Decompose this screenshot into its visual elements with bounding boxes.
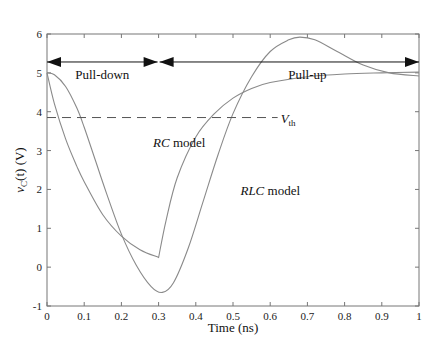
vth-label: Vth — [281, 111, 296, 128]
y-tick-label: 2 — [37, 183, 43, 195]
voltage-time-chart: 00.10.20.30.40.50.60.70.80.91-10123456 V… — [0, 0, 442, 347]
x-tick-label: 0.7 — [301, 310, 315, 322]
x-tick-label: 0.8 — [338, 310, 352, 322]
x-tick-label: 0.1 — [77, 310, 91, 322]
x-tick-label: 1 — [416, 310, 422, 322]
pull-up-label: Pull-up — [288, 67, 326, 82]
y-tick-label: 4 — [37, 106, 43, 118]
pull-up-arrowhead-right-icon — [405, 57, 419, 67]
x-axis-label: Time (ns) — [208, 320, 258, 335]
x-tick-label: 0.2 — [115, 310, 129, 322]
rc-model-label: RC model — [152, 135, 206, 150]
y-tick-label: 1 — [37, 222, 43, 234]
y-axis-label: vC(t) (V) — [12, 147, 29, 192]
x-tick-label: 0.6 — [263, 310, 277, 322]
x-tick-label: 0.3 — [152, 310, 166, 322]
y-tick-label: 5 — [37, 67, 43, 79]
rlc-model-label: RLC model — [239, 183, 300, 198]
pull-up-arrowhead-left-icon — [160, 57, 174, 67]
y-tick-label: 3 — [37, 145, 43, 157]
pull-down-arrowhead-left-icon — [47, 57, 61, 67]
x-tick-label: 0 — [44, 310, 50, 322]
y-tick-label: 6 — [37, 28, 43, 40]
x-tick-label: 0.9 — [375, 310, 389, 322]
y-label-rest: (t) (V) — [12, 147, 27, 181]
svg-text:vC(t) (V): vC(t) (V) — [12, 147, 29, 192]
y-tick-label: -1 — [33, 300, 42, 312]
pull-down-arrowhead-right-icon — [144, 57, 158, 67]
y-tick-label: 0 — [37, 261, 43, 273]
rc-model-curve — [47, 72, 419, 257]
x-tick-label: 0.4 — [189, 310, 203, 322]
pull-down-label: Pull-down — [75, 67, 130, 82]
annotations: VthPull-downPull-upRC modelRLC model — [47, 57, 419, 198]
